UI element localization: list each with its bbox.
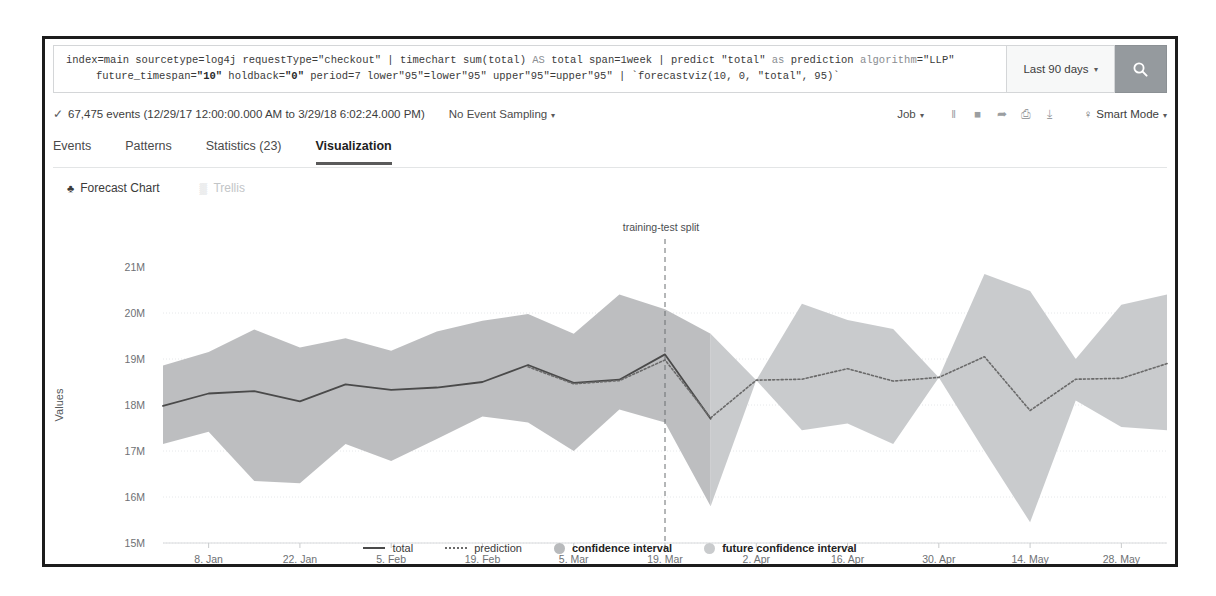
query-token: holdback= [222, 70, 285, 82]
y-axis-tick-label: 18M [125, 399, 145, 411]
trellis-button[interactable]: ▒Trellis [200, 181, 245, 195]
query-token: index=main sourcetype=log4j requestType=… [66, 54, 532, 66]
chart-tool-label: Trellis [213, 181, 245, 195]
legend-label: prediction [474, 542, 522, 554]
query-token: prediction [784, 54, 860, 66]
search-mode-dropdown[interactable]: ♀Smart Mode▾ [1084, 108, 1167, 120]
chevron-down-icon: ▾ [1163, 111, 1167, 120]
y-axis-tick-label: 21M [125, 261, 145, 273]
legend-label: total [392, 542, 413, 554]
legend-line-swatch [363, 547, 385, 549]
chevron-down-icon: ▾ [920, 111, 924, 120]
forecast-chart-icon: ♣ [67, 182, 74, 194]
tab-label: Patterns [125, 139, 172, 153]
legend-dot-swatch [554, 543, 565, 554]
print-icon[interactable]: ⎙ [1014, 108, 1038, 121]
search-submit-button[interactable] [1115, 45, 1167, 93]
legend-dashed-swatch [445, 547, 467, 549]
pause-icon[interactable]: ‖ [942, 108, 966, 120]
query-token: algorithm [860, 54, 917, 66]
legend-label: confidence interval [572, 542, 672, 554]
tab-visualization[interactable]: Visualization [316, 131, 392, 165]
tab-events[interactable]: Events [53, 131, 91, 165]
y-axis-tick-label: 20M [125, 307, 145, 319]
training-test-split-label: training-test split [623, 221, 700, 233]
y-axis-tick-label: 19M [125, 353, 145, 365]
forecast-chart: 21M20M19M18M17M16M15MValues8. Jan22. Jan… [45, 199, 1175, 567]
search-query-input[interactable]: index=main sourcetype=log4j requestType=… [53, 45, 1007, 93]
query-token: period=7 lower"95"=lower"95" upper"95"=u… [304, 70, 840, 82]
job-status-bar: ✓ 67,475 events (12/29/17 12:00:00.000 A… [53, 99, 1167, 129]
job-dropdown[interactable]: Job▾ [897, 108, 924, 120]
legend-item-future-confidence-interval[interactable]: future confidence interval [704, 542, 856, 554]
legend-future-dot-swatch [704, 543, 715, 554]
legend-label: future confidence interval [722, 542, 856, 554]
job-label: Job [897, 108, 916, 120]
forecast-chart-button[interactable]: ♣Forecast Chart [67, 181, 160, 195]
lightbulb-icon: ♀ [1084, 108, 1093, 120]
y-axis-title: Values [53, 388, 65, 421]
search-mode-label: Smart Mode [1096, 108, 1159, 120]
tab-label: Statistics (23) [206, 139, 282, 153]
time-range-label: Last 90 days [1023, 63, 1088, 75]
legend-item-total[interactable]: total [363, 542, 413, 554]
legend-item-prediction[interactable]: prediction [445, 542, 522, 554]
time-range-picker[interactable]: Last 90 days ▾ [1007, 45, 1115, 93]
y-axis-tick-label: 17M [125, 445, 145, 457]
search-bar: index=main sourcetype=log4j requestType=… [53, 45, 1167, 93]
query-token: "0" [285, 70, 304, 82]
event-sampling-label: No Event Sampling [449, 108, 547, 120]
event-sampling-dropdown[interactable]: No Event Sampling▾ [449, 108, 555, 120]
chevron-down-icon: ▾ [551, 111, 555, 120]
chevron-down-icon: ▾ [1094, 65, 1098, 74]
query-token: future_timespan= [96, 70, 197, 82]
query-token: ="LLP" [917, 54, 955, 66]
query-line-1: index=main sourcetype=log4j requestType=… [66, 52, 996, 68]
query-token: AS [532, 54, 545, 66]
query-token: total span=1week | predict "total" [545, 54, 772, 66]
tab-statistics-23[interactable]: Statistics (23) [206, 131, 282, 165]
chart-canvas: 21M20M19M18M17M16M15MValues8. Jan22. Jan… [45, 199, 1175, 567]
query-token: "10" [197, 70, 222, 82]
chart-legend: totalpredictionconfidence intervalfuture… [45, 538, 1175, 558]
stop-icon[interactable]: ■ [966, 108, 990, 120]
confidence-band-future-confidence-interval [711, 274, 1167, 522]
event-count-label: 67,475 events (12/29/17 12:00:00.000 AM … [68, 108, 425, 120]
query-line-2: future_timespan="10" holdback="0" period… [66, 68, 996, 84]
y-axis-tick-label: 16M [125, 491, 145, 503]
share-icon[interactable]: ➦ [990, 107, 1014, 121]
splunk-search-panel: index=main sourcetype=log4j requestType=… [42, 36, 1178, 567]
tab-label: Visualization [316, 139, 392, 153]
tab-patterns[interactable]: Patterns [125, 131, 172, 165]
chart-tool-label: Forecast Chart [80, 181, 159, 195]
trellis-grid-icon: ▒ [200, 182, 208, 194]
result-tabs: EventsPatternsStatistics (23)Visualizati… [53, 131, 1167, 168]
export-icon[interactable]: ⤓ [1038, 108, 1062, 121]
check-icon: ✓ [53, 107, 63, 121]
legend-item-confidence-interval[interactable]: confidence interval [554, 542, 672, 554]
tab-label: Events [53, 139, 91, 153]
query-token: as [772, 54, 785, 66]
confidence-band-confidence-interval [163, 295, 711, 507]
magnifier-icon [1132, 61, 1149, 78]
chart-toolbar: ♣Forecast Chart▒Trellis [67, 175, 285, 201]
